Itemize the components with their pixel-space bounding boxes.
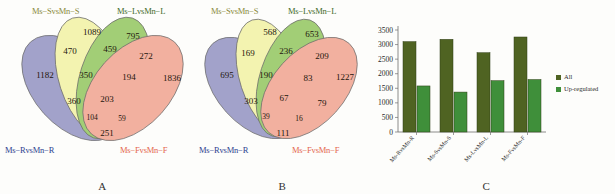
bar-Ms-FvsMn-F-Up-regulated [528,80,541,132]
venn-b-value-RL: 303 [244,96,258,106]
bar-Ms-SvsMn-S-All [440,39,453,132]
bar-chart: 0500100015002000250030003500Ms-RvsMn-RMs… [358,0,615,194]
venn-a-value-SLF: 194 [122,72,136,82]
y-tick-label-2500: 2500 [378,55,393,64]
venn-b-value-SL: 236 [279,46,293,56]
venn-a-value-RSLF: 203 [100,94,114,104]
y-tick-label-3000: 3000 [378,40,393,49]
bar-Ms-RvsMn-R-Up-regulated [417,86,430,132]
venn-b-value-RSL: 190 [259,70,273,80]
venn-b-value-L: 653 [305,29,319,39]
venn-a-value-RLF: 104 [86,113,98,122]
venn-a-value-L: 795 [126,31,140,41]
panel-c: 0500100015002000250030003500Ms-RvsMn-RMs… [358,0,615,194]
venn-a-value-RSF: 59 [118,114,126,123]
bar-Ms-FvsMn-F-All [514,37,527,132]
y-tick-label-2000: 2000 [378,69,393,78]
venn-b-value-RSF: 16 [295,114,303,123]
y-tick-label-1000: 1000 [378,98,393,107]
bar-Ms-LvsMn-L-All [477,53,490,132]
venn-b-value-RF: 111 [277,128,290,138]
venn-b-value-F: 1227 [336,72,355,82]
venn-a-value-RS: 470 [63,46,77,56]
x-tick-label-Ms-LvsMn-L: Ms-LvsMn-L [463,134,490,163]
venn-b-value-RSLF: 67 [280,93,290,103]
venn-a-value-RL: 360 [67,96,81,106]
y-tick-label-1500: 1500 [378,84,393,93]
legend-swatch-All [556,75,561,80]
venn-a-diagram: 1089 795 1182 1836 470 459 272 350 194 3… [0,0,205,160]
bar-Ms-RvsMn-R-All [403,42,416,132]
legend-label-Up-regulated: Up-regulated [564,85,599,92]
legend-swatch-Up-regulated [556,87,561,92]
venn-b-value-SLF: 83 [304,73,314,83]
x-tick-label-Ms-RvsMn-R: Ms-RvsMn-R [388,135,415,164]
bar-Ms-SvsMn-S-Up-regulated [454,92,467,132]
panel-a: Ms−SvsMn−S Ms−LvsMn−L Ms−RvsMn−R Ms−FvsM… [0,0,205,194]
venn-b-value-RS: 169 [241,48,255,58]
venn-b-value-RLF: 39 [262,112,270,121]
venn-a-value-LF: 272 [139,51,153,61]
y-tick-label-0: 0 [389,128,393,137]
venn-b-svg: 568 653 695 1227 169 236 209 190 83 303 … [200,0,365,160]
x-tick-label-Ms-FvsMn-F: Ms-FvsMn-F [500,134,526,162]
panel-b: Ms−SvsMn−S Ms−LvsMn−L Ms−RvsMn−R Ms−FvsM… [200,0,365,194]
venn-b-value-S: 568 [263,27,277,37]
y-tick-label-3500: 3500 [378,26,393,35]
venn-b-value-LF: 209 [315,51,329,61]
x-tick-label-Ms-SvsMn-S: Ms-SvsMn-S [426,135,452,163]
panel-a-letter: A [0,180,205,192]
venn-a-value-RF: 251 [100,128,114,138]
venn-b-diagram: 568 653 695 1227 169 236 209 190 83 303 … [200,0,365,160]
bar-chart-svg: 0500100015002000250030003500Ms-RvsMn-RMs… [358,0,615,194]
y-tick-label-500: 500 [382,113,394,122]
bar-Ms-LvsMn-L-Up-regulated [491,81,504,132]
venn-a-value-R: 1182 [36,70,54,80]
venn-a-value-F: 1836 [163,73,182,83]
venn-a-value-S: 1089 [83,27,102,37]
panel-c-letter: C [358,180,615,192]
venn-a-value-SL: 459 [103,44,117,54]
venn-b-value-LFx: 79 [318,98,328,108]
venn-a-value-RSL: 350 [79,70,93,80]
panel-b-letter: B [200,180,365,192]
legend-label-All: All [564,73,573,80]
figure-container: Ms−SvsMn−S Ms−LvsMn−L Ms−RvsMn−R Ms−FvsM… [0,0,615,194]
venn-a-svg: 1089 795 1182 1836 470 459 272 350 194 3… [0,0,205,160]
venn-b-value-R: 695 [220,70,234,80]
